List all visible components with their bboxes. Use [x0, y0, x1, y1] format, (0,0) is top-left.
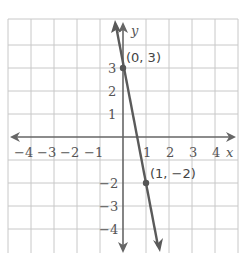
x-axis-label: x	[226, 145, 234, 160]
svg-text:2: 2	[108, 84, 116, 99]
svg-text:−1: −1	[84, 145, 103, 160]
svg-text:−3: −3	[37, 145, 56, 160]
svg-text:−4: −4	[14, 145, 33, 160]
svg-text:−2: −2	[99, 176, 118, 191]
y-axis-label: y	[130, 23, 139, 38]
point-1-neg2	[143, 180, 149, 186]
svg-text:1: 1	[143, 145, 151, 160]
svg-text:3: 3	[108, 61, 116, 76]
svg-text:4: 4	[212, 145, 220, 160]
svg-text:2: 2	[166, 145, 174, 160]
svg-text:1: 1	[108, 107, 116, 122]
svg-text:−3: −3	[99, 199, 118, 214]
x-tick-labels: −4 −3 −2 −1 1 2 3 4	[14, 145, 220, 160]
point-label-1-neg2: (1, −2)	[150, 166, 196, 181]
svg-text:−2: −2	[60, 145, 79, 160]
coordinate-graph: y x −4 −3 −2 −1 1 2 3 4 3 2 1 −2 −3 −4 (…	[0, 0, 244, 253]
point-0-3	[120, 65, 126, 71]
svg-text:−4: −4	[99, 222, 118, 237]
point-label-0-3: (0, 3)	[126, 50, 161, 65]
svg-text:3: 3	[189, 145, 197, 160]
